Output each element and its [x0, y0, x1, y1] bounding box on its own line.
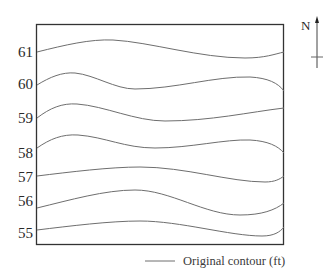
contour-line-57: [37, 167, 284, 182]
contour-line-58: [37, 135, 284, 153]
contour-line-61: [37, 40, 284, 58]
elevation-label-55: 55: [18, 225, 33, 241]
elevation-label-59: 59: [18, 110, 33, 126]
elevation-label-58: 58: [18, 145, 33, 161]
elevation-label-60: 60: [18, 76, 33, 92]
legend-label: Original contour (ft): [183, 254, 285, 268]
north-label: N: [301, 18, 311, 33]
elevation-label-57: 57: [18, 169, 34, 185]
legend: Original contour (ft): [145, 254, 285, 268]
contour-line-56: [37, 190, 284, 215]
contour-line-60: [37, 73, 284, 91]
elevation-label-61: 61: [18, 44, 33, 60]
elevation-label-56: 56: [18, 193, 34, 209]
contour-map: 61 60 59 58 57 56 55 N Original contour …: [0, 0, 335, 276]
north-arrow-icon: [311, 16, 323, 68]
contour-line-55: [37, 221, 284, 236]
contour-line-59: [37, 104, 284, 121]
